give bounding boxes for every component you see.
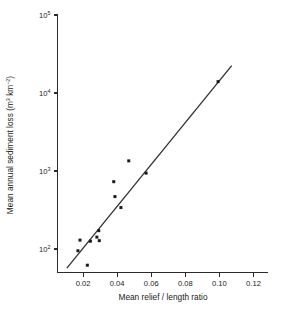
y-axis-tick-labels: 102103104105 [39, 10, 50, 254]
y-tick-label: 104 [39, 88, 50, 98]
data-point [127, 159, 130, 162]
x-tick-label: 0.10 [212, 279, 227, 288]
data-point [145, 172, 148, 175]
figure-container: 102103104105 0.020.040.060.080.100.12 Me… [0, 0, 284, 310]
y-axis-title: Mean annual sediment loss (m3 km−2) [5, 76, 15, 215]
data-point [95, 236, 98, 239]
data-points-group [76, 80, 219, 267]
data-point [119, 206, 122, 209]
data-point [97, 229, 100, 232]
y-tick-label: 102 [39, 244, 50, 254]
data-point [86, 264, 89, 267]
x-axis-title: Mean relief / length ratio [118, 292, 207, 302]
x-tick-label: 0.08 [178, 279, 193, 288]
scatter-plot: 102103104105 0.020.040.060.080.100.12 Me… [0, 0, 284, 310]
x-axis-tick-labels: 0.020.040.060.080.100.12 [76, 279, 261, 288]
data-point [79, 239, 82, 242]
data-point [76, 249, 79, 252]
x-tick-label: 0.02 [76, 279, 91, 288]
x-tick-label: 0.12 [246, 279, 261, 288]
data-point [217, 80, 220, 83]
x-tick-label: 0.06 [144, 279, 159, 288]
y-axis-title-group: Mean annual sediment loss (m3 km−2) [5, 76, 15, 215]
y-axis-ticks [54, 15, 58, 249]
data-point [113, 195, 116, 198]
data-point [89, 240, 92, 243]
x-tick-label: 0.04 [110, 279, 125, 288]
y-tick-label: 103 [39, 166, 50, 176]
x-axis-ticks [83, 273, 253, 277]
axes-spines [58, 15, 269, 273]
y-tick-label: 105 [39, 10, 50, 20]
data-point [112, 180, 115, 183]
trend-line [67, 66, 232, 269]
data-point [98, 239, 101, 242]
